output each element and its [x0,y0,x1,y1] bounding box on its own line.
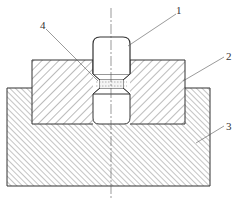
diagram-canvas: 1 2 3 4 [0,0,238,206]
label-4: 4 [40,19,46,31]
punch [93,37,130,74]
label-2: 2 [226,50,232,62]
label-1: 1 [176,4,182,16]
workpiece [93,74,130,94]
label-3: 3 [226,120,232,132]
